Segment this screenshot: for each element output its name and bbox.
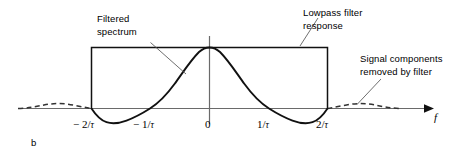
annotation-lowpass-filter-line1: Lowpass filter	[303, 7, 362, 18]
panel-label-b: b	[31, 137, 36, 148]
annotation-removed-line1: Signal components	[360, 53, 443, 64]
figure-panel-b: Filtered spectrum Lowpass filter respons…	[0, 0, 467, 154]
xtick-label-neg-1-over-tau: − 1/τ	[133, 118, 155, 130]
annotation-filtered-spectrum-line2: spectrum	[97, 26, 137, 37]
removed-sidelobe-left	[18, 104, 92, 109]
xtick-label-neg-2-over-tau: − 2/τ	[73, 118, 95, 130]
frequency-axis-arrowhead	[424, 104, 434, 113]
xtick-label-2-over-tau: 2/τ	[316, 118, 329, 130]
removed-sidelobe-right	[328, 104, 402, 109]
leader-line-signal-components-removed	[357, 79, 381, 105]
axis-variable-label: f	[434, 111, 439, 123]
annotation-filtered-spectrum-line1: Filtered	[97, 13, 129, 24]
xtick-label-1-over-tau: 1/τ	[257, 118, 270, 130]
spectrum-filter-diagram: Filtered spectrum Lowpass filter respons…	[0, 0, 467, 154]
annotation-removed-line2: removed by filter	[360, 66, 432, 77]
xtick-label-zero: 0	[205, 118, 211, 130]
annotation-lowpass-filter-line2: response	[303, 20, 343, 31]
